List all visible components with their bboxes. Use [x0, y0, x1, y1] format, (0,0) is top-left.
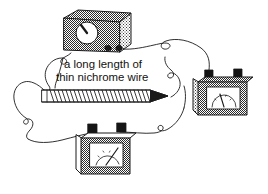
annotation-line-2: thin nichrome wire [56, 71, 148, 83]
meter-bottom-terminal-1[interactable] [88, 124, 97, 133]
power-supply-terminal-1[interactable] [105, 45, 111, 50]
meter-right-top-face [198, 77, 253, 82]
power-supply-terminal-2[interactable] [116, 45, 122, 50]
figure-canvas: a long length of thin nichrome wire [0, 0, 268, 194]
circuit-diagram: a long length of thin nichrome wire [0, 0, 268, 194]
meter-bottom-side-face [76, 135, 81, 174]
power-supply[interactable] [64, 10, 131, 52]
meter-right-terminal-2[interactable] [234, 69, 242, 77]
annotation-line-1: a long length of [64, 58, 143, 70]
nichrome-wire-coil [42, 90, 168, 102]
annotation-text: a long length of thin nichrome wire [56, 58, 148, 83]
meter-bottom-top-face [81, 133, 136, 138]
meter-bottom-terminal-2[interactable] [117, 123, 126, 132]
meter-right-side-face [193, 79, 198, 115]
